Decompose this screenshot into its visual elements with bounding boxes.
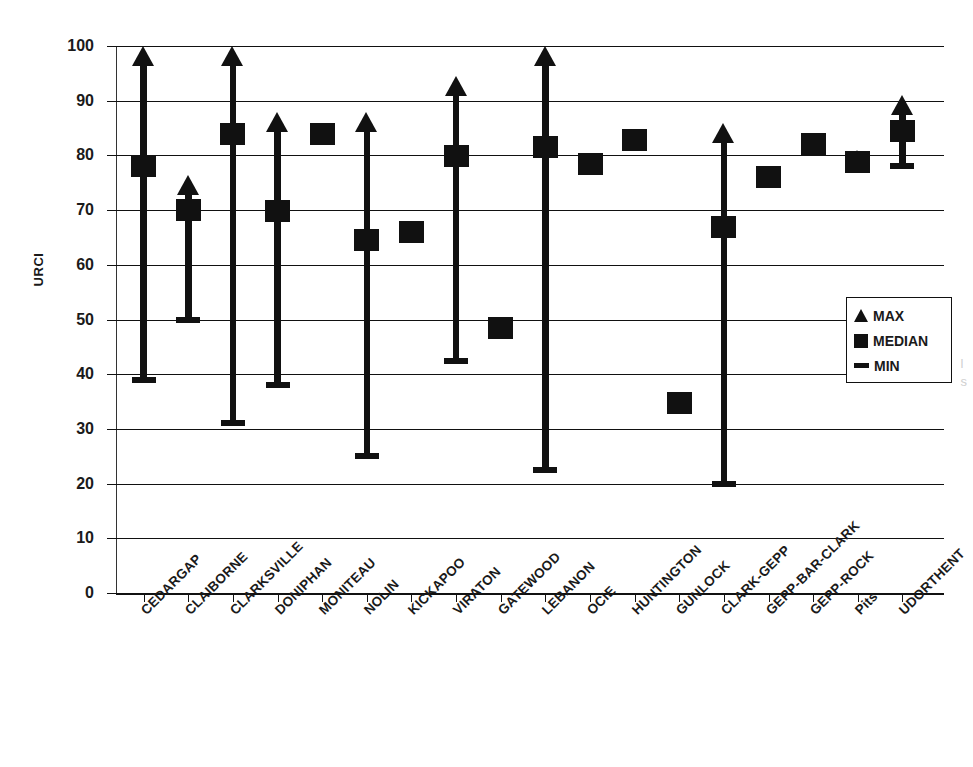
legend-item-max: MAX [854, 303, 951, 328]
artifact-line-2: s [961, 373, 968, 391]
median-marker [890, 120, 915, 142]
median-marker [711, 216, 736, 238]
gridline-20 [116, 484, 944, 485]
median-marker [265, 200, 290, 222]
y-tick-mark-70 [107, 210, 116, 211]
max-marker [266, 112, 288, 132]
urci-range-chart: URCI 1009080706050403020100 MAX MEDIAN M… [0, 0, 973, 767]
max-marker [132, 46, 154, 66]
y-tick-label-20: 20 [50, 476, 94, 492]
max-marker [445, 76, 467, 96]
min-marker [444, 358, 468, 364]
median-marker [310, 123, 335, 145]
gridline-10 [116, 538, 944, 539]
triangle-up-icon [854, 309, 868, 322]
median-marker [399, 221, 424, 243]
y-tick-mark-60 [107, 265, 116, 266]
median-marker [131, 155, 156, 177]
y-tick-label-70: 70 [50, 202, 94, 218]
gridline-50 [116, 320, 944, 321]
range-bar [140, 58, 146, 380]
y-tick-mark-40 [107, 374, 116, 375]
y-tick-mark-80 [107, 155, 116, 156]
artifact-line-1: l [961, 355, 968, 373]
legend-label-max: MAX [873, 309, 904, 323]
y-tick-mark-100 [107, 46, 116, 47]
min-marker [176, 317, 200, 323]
max-marker [712, 123, 734, 143]
max-marker [221, 46, 243, 66]
y-tick-label-90: 90 [50, 93, 94, 109]
y-tick-mark-0 [107, 593, 116, 594]
max-marker [534, 46, 556, 66]
max-marker [891, 95, 913, 115]
scan-edge-artifact: l s [961, 355, 968, 390]
range-bar [453, 88, 459, 360]
min-marker [355, 453, 379, 459]
y-tick-label-60: 60 [50, 257, 94, 273]
square-icon [854, 334, 868, 348]
gridline-30 [116, 429, 944, 430]
range-bar [721, 135, 727, 484]
y-tick-label-40: 40 [50, 366, 94, 382]
min-marker [533, 467, 557, 473]
y-tick-label-30: 30 [50, 421, 94, 437]
y-axis-title: URCI [31, 240, 46, 300]
legend-item-median: MEDIAN [854, 328, 951, 353]
plot-area: 1009080706050403020100 [116, 46, 944, 593]
range-bar [230, 58, 236, 423]
chart-legend: MAX MEDIAN MIN [846, 297, 952, 383]
range-bar [274, 124, 280, 386]
y-tick-mark-90 [107, 101, 116, 102]
range-bar [364, 124, 370, 457]
min-marker [132, 377, 156, 383]
y-tick-label-100: 100 [50, 38, 94, 54]
gridline-90 [116, 101, 944, 102]
median-marker [756, 166, 781, 188]
dash-icon [854, 363, 869, 368]
median-marker [667, 392, 692, 414]
min-marker [266, 382, 290, 388]
gridline-40 [116, 374, 944, 375]
y-tick-mark-10 [107, 538, 116, 539]
y-tick-mark-30 [107, 429, 116, 430]
median-marker [444, 145, 469, 167]
y-tick-label-10: 10 [50, 530, 94, 546]
gridline-70 [116, 210, 944, 211]
min-marker [890, 163, 914, 169]
y-tick-label-0: 0 [50, 585, 94, 601]
median-marker [845, 151, 870, 173]
gridline-60 [116, 265, 944, 266]
legend-label-min: MIN [874, 359, 900, 373]
median-marker [488, 317, 513, 339]
median-marker [176, 199, 201, 221]
gridline-80 [116, 155, 944, 156]
range-bar [542, 58, 548, 470]
legend-label-median: MEDIAN [873, 334, 928, 348]
y-tick-label-50: 50 [50, 312, 94, 328]
y-tick-label-80: 80 [50, 147, 94, 163]
median-marker [578, 153, 603, 175]
legend-item-min: MIN [854, 353, 951, 378]
max-marker [177, 175, 199, 195]
min-marker [221, 420, 245, 426]
median-marker [354, 229, 379, 251]
median-marker [220, 123, 245, 145]
y-tick-mark-50 [107, 320, 116, 321]
y-tick-mark-20 [107, 484, 116, 485]
min-marker [712, 481, 736, 487]
median-marker [533, 136, 558, 158]
median-marker [622, 129, 647, 151]
median-marker [801, 133, 826, 155]
max-marker [355, 112, 377, 132]
